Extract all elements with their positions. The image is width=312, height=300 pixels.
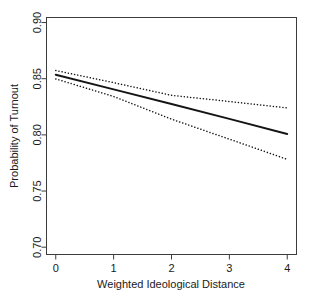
x-tick-label: 1 [111,262,117,274]
x-axis-title: Weighted Ideological Distance [97,278,245,290]
y-tick-label: 0.90 [32,12,44,33]
y-tick-label: 0.75 [32,180,44,201]
x-tick-label: 0 [53,262,59,274]
x-tick-label: 2 [168,262,174,274]
x-tick-label: 4 [284,262,290,274]
y-tick-label: 0.80 [32,124,44,145]
plot-canvas: 01234 0.700.750.800.850.90 Weighted Ideo… [0,0,312,300]
y-tick-label: 0.70 [32,236,44,257]
y-tick-label: 0.85 [32,68,44,89]
chart-figure: 01234 0.700.750.800.850.90 Weighted Ideo… [0,0,312,300]
x-tick-label: 3 [226,262,232,274]
y-axis-title: Probability of Turnout [8,84,20,188]
